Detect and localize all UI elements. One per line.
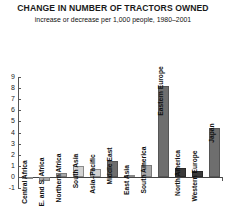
plot-area: -10123456789 Central AfricaE. and S. Afr… bbox=[18, 74, 223, 192]
category-label: Eastern Europe bbox=[157, 66, 164, 115]
bar-group: E. and S. Africa bbox=[36, 74, 53, 192]
bar-series: Central AfricaE. and S. AfricaNorthern A… bbox=[19, 74, 223, 192]
y-tick-label: 8 bbox=[11, 84, 15, 91]
category-label: South Asia bbox=[72, 153, 79, 188]
category-label: Northern Africa bbox=[55, 154, 62, 203]
chart-title: CHANGE IN NUMBER OF TRACTORS OWNED bbox=[0, 3, 226, 13]
bar-group: Western Europe bbox=[189, 74, 206, 192]
y-tick-label: 7 bbox=[11, 95, 15, 102]
y-tick-label: -1 bbox=[9, 184, 15, 191]
category-label: North America bbox=[174, 150, 181, 196]
category-label: Central Africa bbox=[21, 160, 28, 204]
bar-group: Central Africa bbox=[19, 74, 36, 192]
bar-group: East Asia bbox=[121, 74, 138, 192]
chart-subtitle: increase or decrease per 1,000 people, 1… bbox=[0, 15, 226, 24]
y-tick-label: 0 bbox=[11, 173, 15, 180]
bar-group: Northern Africa bbox=[53, 74, 70, 192]
category-label: East Asia bbox=[123, 165, 130, 195]
bar-group: Japan bbox=[206, 74, 223, 192]
bar-group: Eastern Europe bbox=[155, 74, 172, 192]
bar-group: North America bbox=[172, 74, 189, 192]
y-tick-label: 4 bbox=[11, 129, 15, 136]
y-tick-label: 9 bbox=[11, 73, 15, 80]
y-tick-label: 1 bbox=[11, 162, 15, 169]
y-tick-label: 5 bbox=[11, 117, 15, 124]
category-label: Asia–Pacific bbox=[89, 154, 96, 193]
bar-group: Asia–Pacific bbox=[87, 74, 104, 192]
tractors-owned-bar-chart: CHANGE IN NUMBER OF TRACTORS OWNED incre… bbox=[0, 0, 226, 212]
y-tick-label: 2 bbox=[11, 151, 15, 158]
y-tick-label: 6 bbox=[11, 106, 15, 113]
bar-group: Middle East bbox=[104, 74, 121, 192]
category-label: Middle East bbox=[106, 148, 113, 185]
category-label: Western Europe bbox=[191, 151, 198, 202]
category-label: South America bbox=[140, 146, 147, 193]
bar-group: South America bbox=[138, 74, 155, 192]
bar-group: South Asia bbox=[70, 74, 87, 192]
category-label: E. and S. Africa bbox=[38, 157, 45, 206]
category-label: Japan bbox=[208, 123, 215, 142]
y-tick-label: 3 bbox=[11, 140, 15, 147]
